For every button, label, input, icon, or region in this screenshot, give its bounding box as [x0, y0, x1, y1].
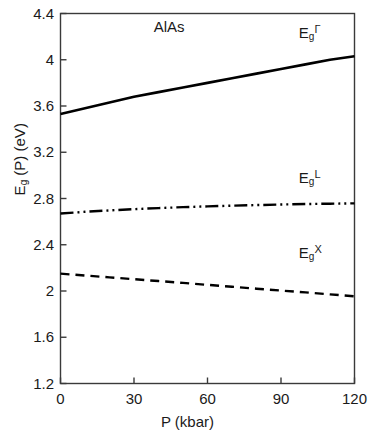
series-label-base: E — [299, 244, 309, 261]
x-tick-label: 90 — [261, 390, 301, 407]
series-label-superscript: L — [314, 168, 320, 180]
chart-figure: 1.21.622.42.83.23.644.4 0306090120 AlAs … — [0, 0, 375, 447]
y-axis-title-text: Eg (P) (eV) — [11, 123, 28, 195]
y-axis-title-sub: g — [18, 180, 29, 186]
plot-frame — [61, 14, 355, 384]
plot-title: AlAs — [154, 18, 185, 35]
x-tick-label: 60 — [188, 390, 228, 407]
x-tick-label: 120 — [335, 390, 375, 407]
x-tick-label: 0 — [41, 390, 81, 407]
x-tick-label: 30 — [114, 390, 154, 407]
series-label-Eg-Gamma: EgΓ — [299, 23, 321, 42]
series-label-superscript: X — [314, 243, 321, 255]
y-tick-label: 1.6 — [10, 328, 54, 345]
series-label-Eg-X: EgX — [299, 243, 322, 262]
y-axis-title-rest-text: (P) (eV) — [11, 123, 28, 176]
y-tick-label: 4.4 — [10, 5, 54, 22]
y-tick-label: 2 — [10, 282, 54, 299]
y-tick-label: 2.4 — [10, 236, 54, 253]
series-label-base: E — [299, 24, 309, 41]
series-label-base: E — [299, 169, 309, 186]
y-axis-title-base: E — [11, 185, 28, 195]
y-axis-title: Eg (P) (eV) — [11, 99, 30, 219]
y-axis-title-rest — [11, 176, 28, 180]
chart-plot-area — [0, 0, 375, 447]
y-tick-label: 4 — [10, 51, 54, 68]
x-axis-title: P (kbar) — [0, 413, 375, 430]
series-label-superscript: Γ — [314, 23, 320, 35]
series-label-Eg-L: EgL — [299, 168, 321, 187]
